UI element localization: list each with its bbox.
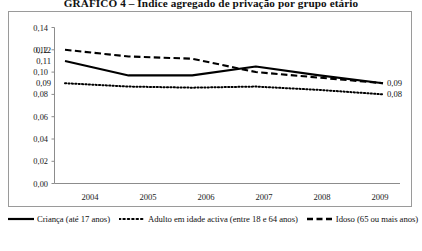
data-label-adulto-end: 0,08 (387, 89, 402, 99)
legend-item-crianca: Criança (até 17 anos) (8, 214, 110, 224)
y-tick-label: 0,02 (33, 157, 48, 166)
legend-swatch-solid-icon (8, 215, 34, 223)
x-tick-label: 2005 (139, 192, 156, 202)
y-tick-label: 0,06 (33, 113, 48, 122)
x-tick-label: 2009 (371, 192, 388, 202)
legend-item-adulto: Adulto em idade activa (entre 18 e 64 an… (119, 214, 298, 224)
chart-plot-area: 0,14 0,12 0,10 0,08 0,06 0,04 0,02 0,00 … (8, 11, 412, 207)
data-label-idoso-start: 0,12 (36, 45, 51, 55)
y-tick-label: 0,08 (33, 90, 48, 99)
legend-item-idoso: Idoso (65 ou mais anos) (307, 214, 418, 224)
legend-label-crianca: Criança (até 17 anos) (37, 214, 110, 224)
x-tick-label: 2004 (81, 192, 99, 202)
data-label-crianca-idoso-end: 0,09 (387, 78, 402, 88)
chart-title: GRÁFICO 4 – Índice agregado de privação … (0, 0, 422, 9)
y-tick-label: 0,00 (33, 180, 48, 189)
x-axis: 2004 2005 2006 2007 2008 2009 (55, 184, 401, 203)
chart-legend: Criança (até 17 anos) Adulto em idade ac… (8, 214, 412, 224)
legend-swatch-dashed-icon (307, 215, 333, 223)
series-line-adulto (65, 83, 383, 94)
legend-label-idoso: Idoso (65 ou mais anos) (336, 214, 418, 224)
legend-label-adulto: Adulto em idade activa (entre 18 e 64 an… (148, 214, 298, 224)
data-label-crianca-start: 0,11 (36, 56, 51, 66)
y-tick-label: 0,10 (33, 68, 48, 77)
y-tick-label: 0,04 (33, 135, 48, 144)
legend-swatch-dotted-icon (119, 215, 145, 223)
data-label-adulto-start: 0,09 (36, 78, 51, 88)
x-tick-label: 2008 (313, 192, 330, 202)
x-tick-label: 2007 (255, 192, 273, 202)
x-tick-label: 2006 (197, 192, 215, 202)
y-tick-label: 0,14 (33, 24, 48, 33)
